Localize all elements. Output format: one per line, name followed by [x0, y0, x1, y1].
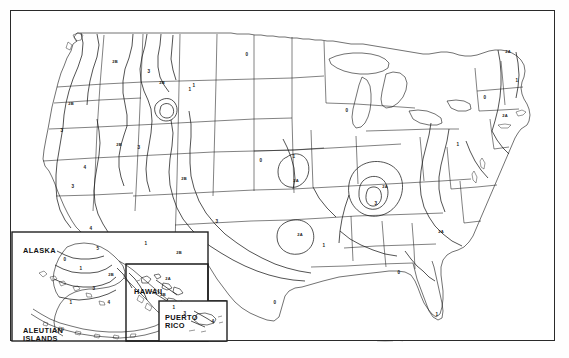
zone-label-central-california: 3	[72, 185, 75, 190]
inset-label-aleutian-islands: ALEUTIAN ISLANDS	[23, 327, 63, 344]
zone-label-hawaii-kauai: 2A	[165, 277, 171, 281]
zone-label-aleutian-west: 1	[70, 301, 73, 306]
inset-label-hawaii: HAWAII	[134, 288, 162, 296]
zone-label-oregon: 2B	[68, 102, 74, 106]
zone-label-puerto-rico-north: 3	[184, 312, 187, 317]
zone-label-alaska-coastal: 4	[108, 301, 111, 306]
zone-label-northern-california: 3	[61, 129, 64, 134]
zone-label-alaska-south: 1	[80, 267, 83, 272]
zone-label-west-texas: 2B	[176, 251, 182, 255]
zone-label-louisiana: 1	[323, 244, 326, 249]
zone-label-imperial-valley: 5	[97, 247, 100, 252]
zone-label-northern-idaho: 2B	[112, 60, 118, 64]
zone-label-oklahoma-contour: 2A	[293, 179, 299, 183]
zone-label-nebraska-kansas: 0	[260, 159, 263, 164]
zone-label-alaska-interior: 0	[64, 258, 67, 263]
zone-label-california-sierra: 4	[84, 166, 87, 171]
zone-label-florida: 1	[436, 313, 439, 318]
zone-label-kansas-missouri: 1	[293, 155, 296, 160]
zone-label-tennessee-valley: 2A	[382, 185, 388, 189]
zone-label-colorado-plateau: 2B	[181, 177, 187, 181]
zone-label-western-montana: 3	[148, 70, 151, 75]
zone-label-hawaii-big-island: 1	[173, 306, 176, 311]
zone-label-north-dakota: 0	[246, 53, 249, 58]
zone-label-gulf-coast: 0	[398, 271, 401, 276]
zone-label-central-montana: 1	[193, 84, 196, 89]
zone-label-montana-divide: 2B	[159, 81, 165, 85]
zone-label-massachusetts: 2A	[502, 114, 508, 118]
zone-label-south-carolina: 2A	[438, 230, 444, 234]
inset-label-alaska: ALASKA	[23, 247, 56, 255]
zone-label-arizona: 1	[145, 242, 148, 247]
zone-label-new-mexico: 3	[216, 220, 219, 225]
zone-label-eastern-montana: 1	[189, 88, 192, 93]
map-frame-border: ALASKA ALEUTIAN ISLANDS HAWAII PUERTO RI…	[10, 10, 555, 341]
inset-label-puerto-rico: PUERTO RICO	[165, 314, 198, 331]
zone-label-alaska-peninsula: 3	[93, 287, 96, 292]
zone-label-east-texas: 2A	[297, 233, 303, 237]
zone-label-wisconsin: 0	[346, 109, 349, 114]
zone-label-alaska-southeast: 2B	[108, 273, 114, 277]
zone-label-puerto-rico-east: 4	[212, 320, 215, 325]
zone-label-south-texas: 0	[274, 301, 277, 306]
zone-label-pennsylvania: 1	[457, 143, 460, 148]
zone-label-southern-idaho: 2B	[116, 143, 122, 147]
zone-label-new-madrid: 3	[375, 202, 378, 207]
puerto-rico-inset-layer	[11, 11, 556, 342]
zone-label-wyoming-border: 3	[138, 146, 141, 151]
zone-label-new-york: 0	[484, 96, 487, 101]
zone-label-hawaii-oahu: 2B	[160, 293, 166, 297]
zone-label-southern-california: 4	[90, 227, 93, 232]
zone-label-maine: 2A	[505, 50, 511, 54]
climate-zone-map-figure: ALASKA ALEUTIAN ISLANDS HAWAII PUERTO RI…	[0, 0, 569, 358]
zone-label-northern-maine: 1	[516, 79, 519, 84]
